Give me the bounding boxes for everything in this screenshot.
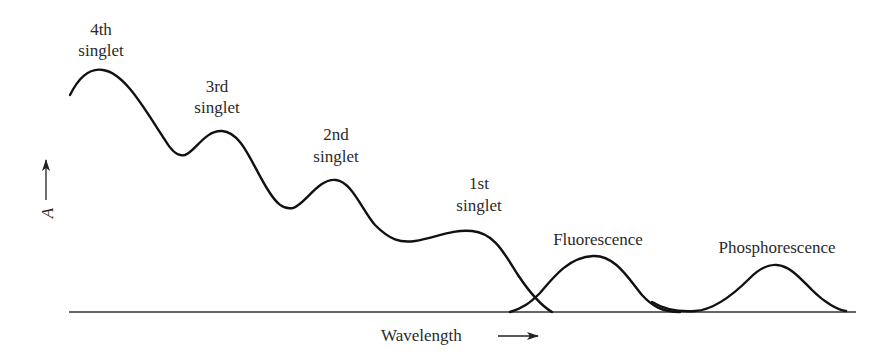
spectrum-diagram: A Wavelength 4th singlet 3rd singlet 2nd… <box>0 0 883 364</box>
y-axis-label: A <box>38 207 57 219</box>
label-4th-singlet-line1: 4th <box>90 20 112 39</box>
label-2nd-singlet-line1: 2nd <box>323 125 349 144</box>
phosphorescence-curve <box>652 265 846 311</box>
label-fluorescence: Fluorescence <box>553 230 643 249</box>
label-phosphorescence: Phosphorescence <box>718 238 835 257</box>
label-4th-singlet-line2: singlet <box>78 41 124 60</box>
label-1st-singlet-line2: singlet <box>456 196 502 215</box>
label-3rd-singlet-line1: 3rd <box>206 77 229 96</box>
label-2nd-singlet-line2: singlet <box>313 147 359 166</box>
x-axis-label: Wavelength <box>381 326 462 345</box>
label-1st-singlet-line1: 1st <box>469 174 489 193</box>
label-3rd-singlet-line2: singlet <box>194 98 240 117</box>
